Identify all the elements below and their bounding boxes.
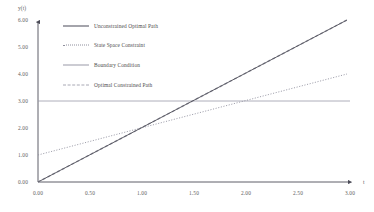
x-tick-label-6: 3.00 bbox=[335, 190, 365, 196]
legend-label: Boundary Condition bbox=[94, 62, 140, 68]
x-tick-label-5: 2.50 bbox=[283, 190, 313, 196]
y-tick-label-6: 6.00 bbox=[6, 17, 28, 23]
plot-canvas bbox=[0, 0, 374, 212]
y-tick-label-2: 2.00 bbox=[6, 125, 28, 131]
dashed-line-icon bbox=[63, 82, 89, 88]
x-tick-label-4: 2.00 bbox=[231, 190, 261, 196]
x-axis-label: t bbox=[363, 179, 365, 185]
legend-item-boundary-condition: Boundary Condition bbox=[63, 60, 140, 70]
legend-label: State Space Constraint bbox=[94, 42, 145, 48]
y-axis-label: y(t) bbox=[18, 5, 26, 11]
dotted-line-icon bbox=[63, 42, 89, 48]
y-tick-label-3: 3.00 bbox=[6, 98, 28, 104]
solid-light-line-icon bbox=[63, 62, 89, 68]
x-tick-label-0: 0.00 bbox=[23, 190, 53, 196]
y-tick-label-0: 0.00 bbox=[6, 179, 28, 185]
x-tick-label-3: 1.50 bbox=[179, 190, 209, 196]
legend-label: Unconstrained Optimal Path bbox=[94, 23, 158, 29]
legend-label: Optimal Constrained Path bbox=[94, 82, 152, 88]
chart-figure: y(t) t 6.00 5.00 4.00 3.00 2.00 1.00 0.0… bbox=[0, 0, 374, 212]
x-tick-label-1: 0.50 bbox=[75, 190, 105, 196]
legend-item-unconstrained-optimal-path: Unconstrained Optimal Path bbox=[63, 21, 158, 31]
solid-dark-line-icon bbox=[63, 23, 89, 29]
x-tick-label-2: 1.00 bbox=[127, 190, 157, 196]
legend-item-optimal-constrained-path: Optimal Constrained Path bbox=[63, 80, 152, 90]
y-tick-label-1: 1.00 bbox=[6, 152, 28, 158]
y-tick-label-4: 4.00 bbox=[6, 71, 28, 77]
legend-item-state-space-constraint: State Space Constraint bbox=[63, 40, 145, 50]
y-tick-label-5: 5.00 bbox=[6, 44, 28, 50]
